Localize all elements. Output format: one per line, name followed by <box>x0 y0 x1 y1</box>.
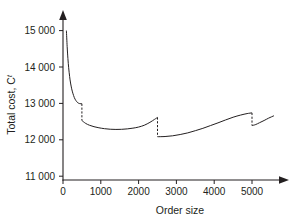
curve-segment-2 <box>82 117 158 129</box>
x-tick-label-5000: 5000 <box>241 186 264 197</box>
x-tick-label-1000: 1000 <box>90 186 113 197</box>
y-axis-arrowhead <box>59 10 67 20</box>
chart-figure: 15 000 14 000 13 000 12 000 11 000 0 100… <box>0 0 297 221</box>
y-tick-label-11000: 11 000 <box>25 171 55 182</box>
y-tick-label-14000: 14 000 <box>24 62 55 73</box>
x-tick-label-3000: 3000 <box>165 186 188 197</box>
x-axis-arrowhead <box>279 176 289 184</box>
curve-segment-1 <box>66 31 82 104</box>
y-axis-title: Total cost, Ct <box>5 74 17 135</box>
y-axis-title-text: Total cost, C <box>5 77 17 135</box>
x-tick-label-4000: 4000 <box>203 186 226 197</box>
total-cost-chart: 15 000 14 000 13 000 12 000 11 000 0 100… <box>0 0 297 221</box>
y-axis-ticks <box>59 31 63 177</box>
x-axis-title: Order size <box>156 204 205 216</box>
x-tick-label-0: 0 <box>60 186 66 197</box>
data-series-total-cost <box>66 31 274 137</box>
y-tick-label-12000: 12 000 <box>24 134 55 145</box>
curve-segment-3 <box>158 113 253 137</box>
y-tick-label-13000: 13 000 <box>24 98 55 109</box>
y-tick-label-15000: 15 000 <box>24 25 55 36</box>
y-axis-tick-labels: 15 000 14 000 13 000 12 000 11 000 <box>24 25 55 182</box>
x-tick-label-2000: 2000 <box>127 186 150 197</box>
y-axis-title-superscript: t <box>6 74 13 77</box>
x-axis-ticks <box>63 180 252 184</box>
curve-segment-4 <box>252 116 274 126</box>
x-axis-tick-labels: 0 1000 2000 3000 4000 5000 <box>60 186 263 197</box>
